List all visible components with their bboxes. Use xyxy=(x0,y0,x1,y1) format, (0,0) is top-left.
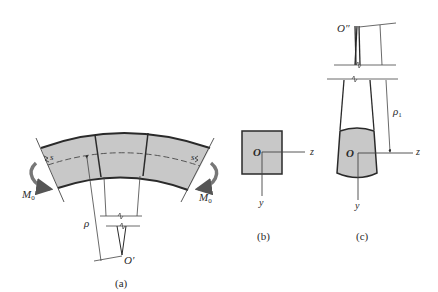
converge-right-c xyxy=(359,26,360,65)
caption-c: (c) xyxy=(356,230,369,243)
rho-extension-line xyxy=(94,256,122,261)
z-label-c: z xyxy=(415,146,420,157)
radius-converge-left xyxy=(117,226,122,255)
panel-a: s s M0 M0 ρ O′ (a) xyxy=(21,133,217,290)
section-label-left: s xyxy=(50,152,54,162)
z-label-b: z xyxy=(309,146,314,157)
moment-label-left: M0 xyxy=(21,188,35,202)
y-label-b: y xyxy=(258,197,264,208)
origin-label-b: O xyxy=(253,146,261,158)
side-line-right-c xyxy=(370,80,374,130)
side-line-left-c xyxy=(340,80,344,130)
radius-converge-right xyxy=(122,226,126,255)
rho1-label: ρ1 xyxy=(392,105,402,119)
moment-label-right: M0 xyxy=(198,191,212,205)
panel-b: O z y (b) xyxy=(242,131,314,243)
center-label-c: O″ xyxy=(337,22,350,34)
beam-bending-figure: s s M0 M0 ρ O′ (a) O z y (b xyxy=(0,0,438,292)
caption-b: (b) xyxy=(257,230,270,243)
radius-line-right xyxy=(137,176,140,216)
y-label-c: y xyxy=(354,200,360,211)
radius-line-left xyxy=(104,177,106,216)
caption-a: (a) xyxy=(115,277,128,290)
panel-c: O″ ρ1 O z y (c) xyxy=(327,22,420,243)
rho-label: ρ xyxy=(83,217,89,229)
center-label-a: O′ xyxy=(124,254,135,266)
rho1-dimension-line xyxy=(386,80,390,152)
moment-arrow-left xyxy=(31,163,50,189)
section-label-right: s xyxy=(191,152,195,162)
origin-label-c: O xyxy=(346,147,354,159)
rho1-top-extension xyxy=(359,23,396,27)
moment-arrow-right xyxy=(198,163,217,189)
rho1-vertical-upper xyxy=(380,25,382,65)
